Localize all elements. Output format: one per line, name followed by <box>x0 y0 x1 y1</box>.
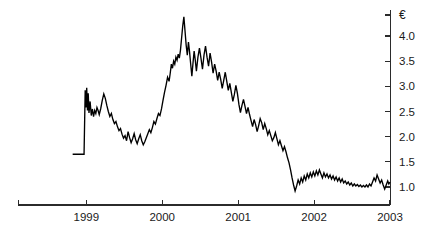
y-axis-tick-label: 2.5 <box>399 106 415 118</box>
share-price-line-chart: 19992000200120022003 1.01.52.02.53.03.54… <box>0 0 427 237</box>
x-axis-tick-label: 2000 <box>149 211 175 223</box>
y-axis-tick-label: 4.0 <box>399 30 415 42</box>
y-axis-tick-label: 1.0 <box>399 181 415 193</box>
y-axis-tick-label: 3.0 <box>399 80 415 92</box>
y-axis-tick-label: 3.5 <box>399 55 415 67</box>
currency-unit-label: € <box>399 8 406 22</box>
x-axis-tick-label: 1999 <box>74 211 100 223</box>
x-axis-tick-label: 2003 <box>377 211 403 223</box>
x-axis-tick-label: 2001 <box>225 211 251 223</box>
y-axis-tick-label: 1.5 <box>399 156 415 168</box>
chart-container: 19992000200120022003 1.01.52.02.53.03.54… <box>0 0 427 237</box>
y-axis-tick-label: 2.0 <box>399 131 415 143</box>
x-axis-tick-label: 2002 <box>301 211 327 223</box>
chart-background <box>0 0 427 237</box>
